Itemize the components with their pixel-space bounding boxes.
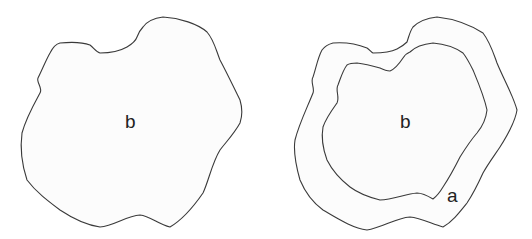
right-inner-region-label-b: b (400, 112, 411, 131)
left-region-label-b: b (125, 112, 136, 131)
right-ring-region-label-a: a (447, 186, 458, 205)
diagram-canvas: b b a (0, 0, 532, 239)
